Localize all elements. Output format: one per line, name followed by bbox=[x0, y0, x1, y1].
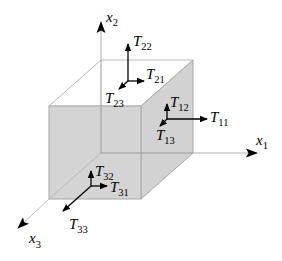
stress-cube-diagram: x2 x1 x3 T22 T21 T23 T11 T12 T13 T31 T32… bbox=[0, 0, 282, 261]
t22-label: T22 bbox=[133, 33, 152, 52]
x3-axis-label: x3 bbox=[28, 230, 41, 250]
x1-axis-label: x1 bbox=[255, 132, 268, 151]
x2-axis-label: x2 bbox=[105, 9, 118, 28]
t33-label: T33 bbox=[69, 216, 88, 235]
t11-label: T11 bbox=[210, 109, 228, 128]
x3-axis bbox=[18, 199, 49, 228]
